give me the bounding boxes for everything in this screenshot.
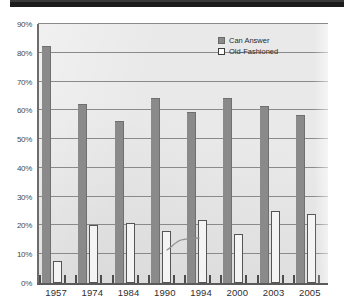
chart-legend: Can Answer Old-Fashioned (218, 36, 278, 58)
bar-chart: 0%10%20%30%40%50%60%70%80%90% 1957197419… (0, 14, 344, 303)
x-axis-label-1990: 1990 (145, 287, 185, 298)
bar-can-answer-1984 (115, 121, 124, 283)
bar-old-fashioned-1974 (89, 225, 98, 283)
y-axis-label-30%: 30% (2, 193, 32, 202)
gridline-70% (38, 81, 328, 82)
y-axis-label-0%: 0% (2, 279, 32, 288)
gridline-90% (38, 23, 328, 24)
page-top-black-band (10, 0, 344, 7)
bar-old-fashioned-2000 (234, 234, 243, 283)
x-axis-label-2005: 2005 (290, 287, 330, 298)
y-axis-label-90%: 90% (2, 20, 32, 29)
bar-can-answer-2000 (223, 98, 232, 283)
legend-item-old-fashioned: Old-Fashioned (218, 47, 278, 56)
bar-old-fashioned-1957 (53, 261, 62, 283)
bar-can-answer-1974 (78, 104, 87, 283)
bar-can-answer-1994 (187, 112, 196, 283)
bar-can-answer-2005 (296, 115, 305, 283)
bar-old-fashioned-1984 (126, 223, 135, 283)
x-axis-line (37, 283, 328, 285)
y-axis-label-10%: 10% (2, 250, 32, 259)
bar-old-fashioned-2005 (307, 214, 316, 283)
bar-old-fashioned-2003 (271, 211, 280, 283)
legend-swatch-can-answer (218, 37, 225, 44)
y-axis-line (37, 24, 39, 283)
bar-can-answer-2003 (260, 106, 269, 283)
x-axis-label-2003: 2003 (254, 287, 294, 298)
legend-item-can-answer: Can Answer (218, 36, 278, 45)
gridline-80% (38, 52, 328, 53)
bar-old-fashioned-1994 (198, 220, 207, 283)
y-axis-label-70%: 70% (2, 78, 32, 87)
bar-can-answer-1957 (42, 46, 51, 283)
y-axis-label-60%: 60% (2, 106, 32, 115)
legend-swatch-old-fashioned (218, 48, 225, 55)
legend-label-old-fashioned: Old-Fashioned (229, 47, 278, 56)
y-axis-label-50%: 50% (2, 135, 32, 144)
legend-label-can-answer: Can Answer (229, 36, 269, 45)
x-axis-label-1984: 1984 (109, 287, 149, 298)
y-axis-label-40%: 40% (2, 164, 32, 173)
bar-old-fashioned-1990 (162, 231, 171, 283)
y-axis-label-20%: 20% (2, 221, 32, 230)
x-axis-label-2000: 2000 (217, 287, 257, 298)
x-axis-label-1974: 1974 (72, 287, 112, 298)
y-axis-label-80%: 80% (2, 49, 32, 58)
bar-can-answer-1990 (151, 98, 160, 283)
x-axis-label-1957: 1957 (36, 287, 76, 298)
x-axis-label-1994: 1994 (181, 287, 221, 298)
plot-area (38, 24, 328, 283)
